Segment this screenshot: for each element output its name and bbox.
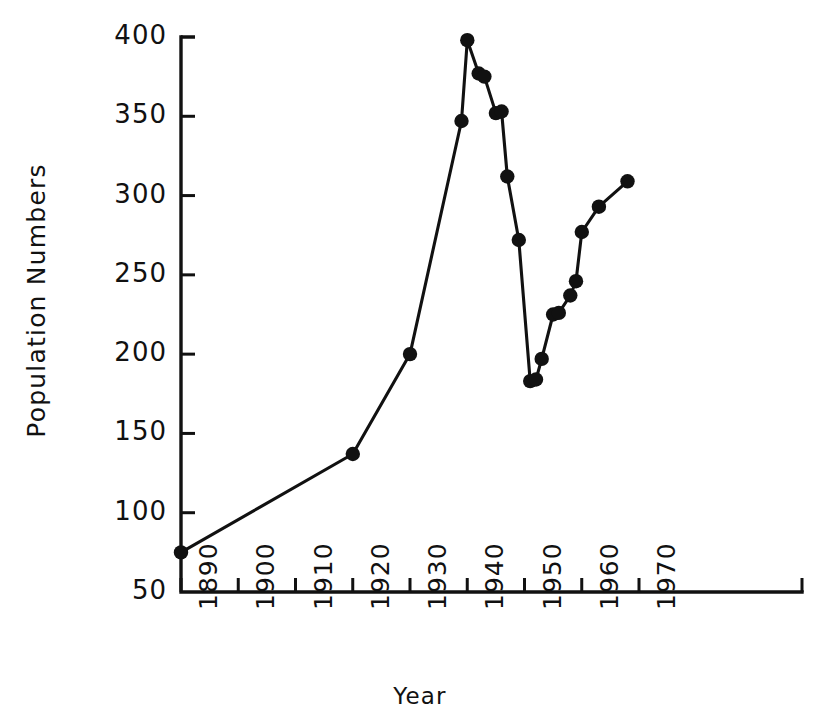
data-point-marker (512, 233, 526, 247)
plot-area (0, 0, 840, 727)
data-point-marker (346, 447, 360, 461)
data-point-marker (569, 274, 583, 288)
data-point-marker (592, 200, 606, 214)
data-point-marker (535, 352, 549, 366)
data-series-line (181, 40, 628, 552)
axis-spine (181, 37, 802, 592)
data-point-marker (575, 225, 589, 239)
data-point-marker (174, 545, 188, 559)
data-point-marker (460, 33, 474, 47)
data-point-marker (494, 104, 508, 118)
data-point-marker (477, 69, 491, 83)
data-point-marker (563, 288, 577, 302)
data-point-marker (454, 114, 468, 128)
data-point-marker (620, 174, 634, 188)
chart-figure: Population Numbers 501001502002503003504… (0, 0, 840, 727)
data-point-marker (552, 306, 566, 320)
data-point-marker (529, 372, 543, 386)
data-point-marker (403, 347, 417, 361)
x-axis-label: Year (0, 683, 840, 709)
data-point-marker (500, 169, 514, 183)
